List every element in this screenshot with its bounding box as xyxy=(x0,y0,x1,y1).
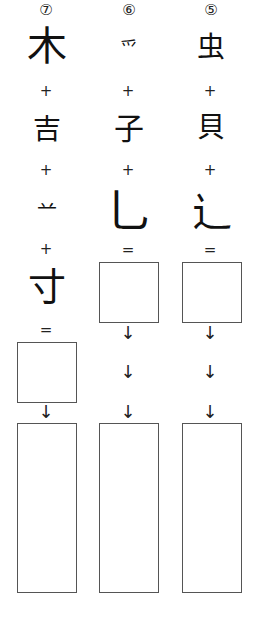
column-number-5: ⑤ xyxy=(196,3,226,18)
component-sun: 寸 xyxy=(22,268,72,306)
component-grass-variant: 䒑 xyxy=(22,198,72,218)
plus-operator: + xyxy=(118,163,138,178)
plus-operator: + xyxy=(36,242,56,257)
plus-operator: + xyxy=(36,84,56,99)
component-shell: 貝 xyxy=(186,114,236,142)
answer-box-reading[interactable] xyxy=(99,423,159,593)
equals-operator: = xyxy=(200,243,220,258)
down-arrow: ↓ xyxy=(118,403,138,421)
column-number-6: ⑥ xyxy=(114,3,144,18)
answer-box-kanji[interactable] xyxy=(17,342,77,403)
plus-operator: + xyxy=(200,84,220,99)
plus-operator: + xyxy=(118,84,138,99)
down-arrow: ↓ xyxy=(118,363,138,381)
component-claw: 爫 xyxy=(104,40,154,58)
answer-box-kanji[interactable] xyxy=(182,262,242,323)
component-walk-radical: ⻌ xyxy=(182,192,242,232)
component-tree-radical: 木 xyxy=(22,26,72,66)
component-insect: 虫 xyxy=(186,34,236,62)
answer-box-reading[interactable] xyxy=(182,423,242,593)
down-arrow: ↓ xyxy=(200,363,220,381)
component-kichi: 吉 xyxy=(22,116,72,144)
answer-box-reading[interactable] xyxy=(17,423,77,593)
down-arrow: ↓ xyxy=(200,324,220,342)
down-arrow: ↓ xyxy=(36,403,56,421)
answer-box-kanji[interactable] xyxy=(99,262,159,323)
column-number-7: ⑦ xyxy=(31,3,61,18)
equals-operator: = xyxy=(118,243,138,258)
down-arrow: ↓ xyxy=(200,403,220,421)
component-child: 子 xyxy=(104,114,154,144)
plus-operator: + xyxy=(200,163,220,178)
down-arrow: ↓ xyxy=(118,324,138,342)
component-hook: 乚 xyxy=(104,188,154,234)
plus-operator: + xyxy=(36,163,56,178)
equals-operator: = xyxy=(36,323,56,338)
